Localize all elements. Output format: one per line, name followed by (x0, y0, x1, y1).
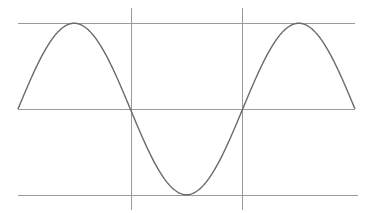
sine-wave-chart (0, 0, 377, 213)
